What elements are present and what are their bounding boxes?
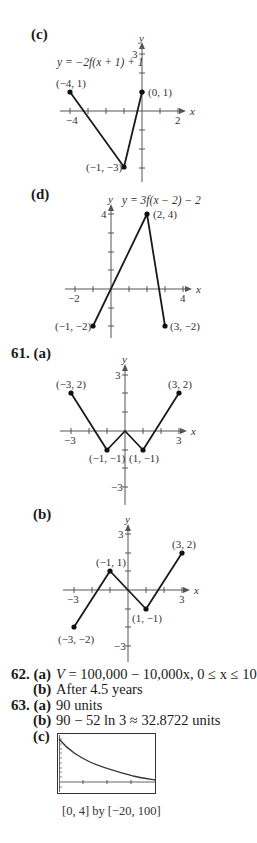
- window-settings: [0, 4] by [−20, 100]: [62, 804, 161, 819]
- graph-curve: [59, 739, 155, 780]
- graph-63c: [0, 0, 257, 843]
